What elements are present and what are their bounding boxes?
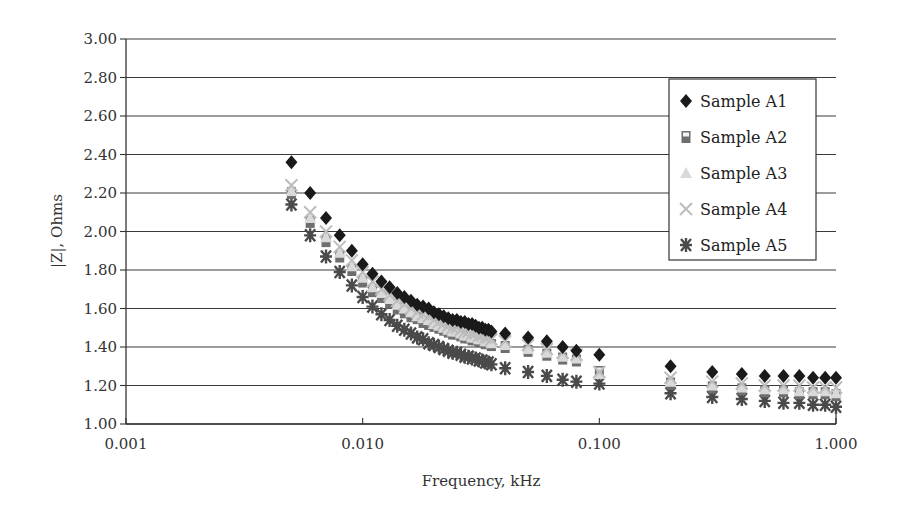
data-point: [485, 357, 497, 371]
y-tick-label: 2.20: [84, 184, 117, 202]
y-tick-label: 2.80: [84, 69, 117, 87]
y-axis-ticks: 1.001.201.401.601.802.002.202.402.602.80…: [84, 30, 126, 433]
legend-label: Sample A4: [700, 200, 787, 219]
data-point: [570, 375, 582, 389]
x-axis-title: Frequency, kHz: [422, 472, 541, 490]
data-point: [304, 228, 316, 242]
x-tick-label: 0.100: [578, 435, 621, 453]
legend-marker-asterisk-icon: [680, 238, 692, 252]
data-point: [320, 250, 332, 264]
data-point: [285, 198, 297, 212]
x-tick-label: 1.000: [815, 435, 858, 453]
y-tick-label: 1.60: [84, 300, 117, 318]
legend-label: Sample A5: [700, 236, 787, 255]
data-point: [557, 373, 569, 387]
y-tick-label: 2.40: [84, 146, 117, 164]
y-axis-title: |Z|, Ohms: [48, 194, 66, 268]
data-point: [665, 359, 677, 373]
y-tick-label: 2.60: [84, 107, 117, 125]
data-point: [777, 396, 789, 410]
legend-label: Sample A2: [700, 128, 787, 147]
data-point: [522, 365, 534, 379]
data-point: [366, 300, 378, 314]
y-tick-label: 2.00: [84, 223, 117, 241]
legend-label: Sample A3: [700, 164, 787, 183]
data-point: [334, 228, 346, 242]
data-point: [346, 278, 358, 292]
data-point: [334, 265, 346, 279]
y-tick-label: 1.20: [84, 377, 117, 395]
impedance-chart: 1.001.201.401.601.802.002.202.402.602.80…: [0, 0, 903, 517]
x-tick-label: 0.010: [341, 435, 384, 453]
data-point: [541, 369, 553, 383]
legend-marker-square-icon: [682, 131, 691, 143]
data-point: [304, 186, 316, 200]
data-point: [593, 348, 605, 362]
y-tick-label: 1.40: [84, 338, 117, 356]
x-axis-ticks: 0.0010.0100.1001.000: [105, 418, 858, 453]
data-point: [285, 155, 297, 169]
legend: Sample A1Sample A2Sample A3Sample A4Samp…: [669, 79, 816, 260]
legend-label: Sample A1: [700, 92, 787, 111]
data-point: [320, 211, 332, 225]
y-tick-label: 3.00: [84, 30, 117, 48]
y-tick-label: 1.80: [84, 261, 117, 279]
data-point: [819, 398, 831, 412]
data-point: [557, 340, 569, 354]
data-point: [499, 361, 511, 375]
x-tick-label: 0.001: [105, 435, 148, 453]
data-point: [807, 398, 819, 412]
y-tick-label: 1.00: [84, 415, 117, 433]
data-point: [830, 400, 842, 414]
